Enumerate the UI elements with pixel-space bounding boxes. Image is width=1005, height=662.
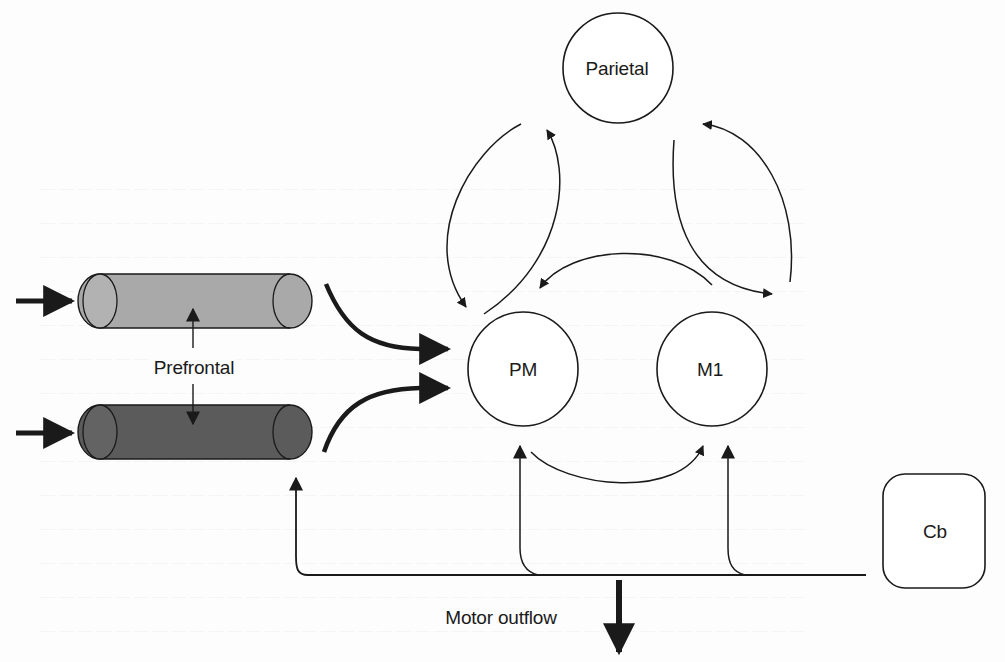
pm-to-parietal-arrow	[484, 130, 560, 314]
diagram-svg	[0, 0, 1005, 662]
motor-outflow-label: Motor outflow	[445, 607, 556, 629]
cb-to-pm-arrow	[520, 446, 538, 575]
m1-to-pm-arrow	[540, 253, 712, 288]
pm-label: PM	[509, 359, 537, 381]
cb-to-m1-arrow	[728, 446, 745, 575]
m1-to-parietal-arrow	[703, 124, 792, 282]
parietal-to-pm-arrow	[447, 124, 521, 307]
prefrontal-cylinder-top	[78, 274, 312, 328]
m1-label: M1	[697, 359, 723, 381]
figure-canvas: — — — — — — — — — — — — — — — — — — — — …	[0, 0, 1005, 662]
pm-to-m1-arrow	[531, 446, 703, 483]
prefrontal-bottom-to-pm-arrow	[324, 388, 448, 452]
parietal-to-m1-arrow	[673, 140, 772, 294]
parietal-label: Parietal	[586, 58, 649, 80]
prefrontal-label: Prefrontal	[152, 357, 236, 379]
prefrontal-top-to-pm-arrow	[326, 284, 448, 349]
cb-output-line	[296, 478, 866, 575]
cb-label: Cb	[923, 521, 947, 543]
prefrontal-cylinder-bottom	[78, 405, 312, 459]
